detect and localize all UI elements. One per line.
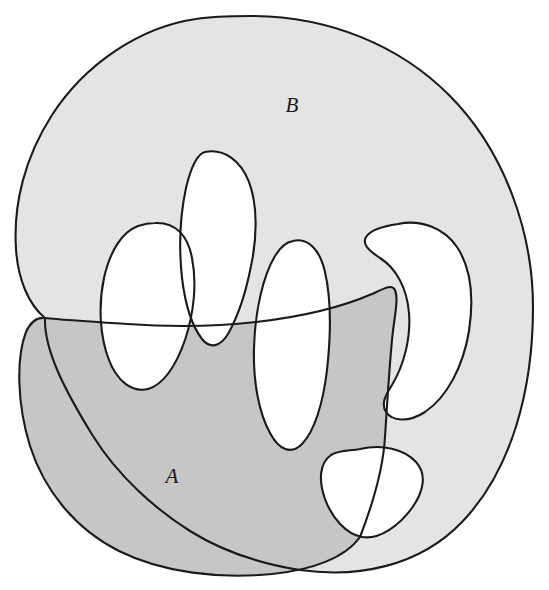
- region-b-label: B: [286, 93, 299, 117]
- region-a-label: A: [164, 464, 179, 488]
- region-diagram-svg: B A: [0, 0, 549, 590]
- figure-container: B A: [0, 0, 549, 590]
